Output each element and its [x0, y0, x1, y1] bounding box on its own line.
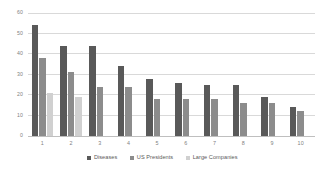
bar [39, 58, 46, 136]
x-axis-tick-label: 7 [200, 138, 229, 148]
y-axis: 0102030405060 [0, 13, 26, 136]
y-axis-tick-label: 60 [17, 10, 23, 15]
y-axis-tick-label: 40 [17, 51, 23, 56]
bar [183, 99, 190, 136]
bar [211, 99, 218, 136]
bar [32, 25, 39, 136]
y-axis-tick-label: 20 [17, 92, 23, 97]
bar-group [28, 13, 57, 136]
bar [68, 72, 75, 136]
bar [47, 93, 54, 136]
x-axis-tick-label: 1 [28, 138, 57, 148]
bar [261, 97, 268, 136]
bar-chart: 0102030405060 12345678910 DiseasesUS Pre… [0, 0, 325, 173]
bar-series-container [28, 13, 315, 136]
legend-label: Diseases [94, 155, 117, 161]
bar [269, 103, 276, 136]
legend-swatch-icon [130, 156, 134, 160]
bar [125, 87, 132, 136]
x-axis-tick-label: 2 [57, 138, 86, 148]
x-axis-tick-label: 3 [85, 138, 114, 148]
legend-label: US Presidents [137, 155, 173, 161]
bar [290, 107, 297, 136]
bar [240, 103, 247, 136]
bar-group [172, 13, 201, 136]
x-axis-tick-label: 9 [258, 138, 287, 148]
x-axis-tick-label: 5 [143, 138, 172, 148]
y-axis-tick-label: 10 [17, 113, 23, 118]
bar-group [200, 13, 229, 136]
legend-item[interactable]: US Presidents [130, 155, 173, 161]
legend-item[interactable]: Diseases [87, 155, 117, 161]
bar-group [114, 13, 143, 136]
bar [89, 46, 96, 136]
y-axis-tick-label: 0 [20, 133, 23, 138]
legend-swatch-icon [87, 156, 91, 160]
legend-swatch-icon [186, 156, 190, 160]
bar [154, 99, 161, 136]
bar [175, 83, 182, 136]
bar [75, 97, 82, 136]
chart-legend: DiseasesUS PresidentsLarge Companies [0, 152, 325, 164]
y-axis-tick-label: 30 [17, 72, 23, 77]
bar-group [143, 13, 172, 136]
bar-group [57, 13, 86, 136]
bar-group [286, 13, 315, 136]
x-axis: 12345678910 [28, 138, 315, 148]
bar [233, 85, 240, 136]
bar [97, 87, 104, 136]
plot-area [28, 13, 315, 136]
bar-group [229, 13, 258, 136]
x-axis-tick-label: 6 [172, 138, 201, 148]
bar-group [258, 13, 287, 136]
legend-item[interactable]: Large Companies [186, 155, 237, 161]
bar [297, 111, 304, 136]
legend-label: Large Companies [193, 155, 238, 161]
bar-group [85, 13, 114, 136]
bar [60, 46, 67, 136]
bar [118, 66, 125, 136]
x-axis-tick-label: 10 [286, 138, 315, 148]
bar [204, 85, 211, 136]
y-axis-tick-label: 50 [17, 31, 23, 36]
bar [146, 79, 153, 136]
x-axis-tick-label: 8 [229, 138, 258, 148]
x-axis-tick-label: 4 [114, 138, 143, 148]
